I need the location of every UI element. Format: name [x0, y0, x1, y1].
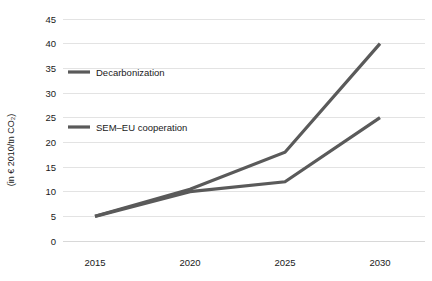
x-tick-label-2020: 2020	[179, 257, 200, 268]
y-axis-title: (in € 2010/tn CO₂)	[6, 114, 16, 187]
chart-canvas: 45 40 35 30 25 20 15 10 5 0 (in € 2010/t…	[0, 0, 432, 281]
y-tick-label-5: 5	[51, 211, 56, 222]
chart-background	[0, 0, 432, 281]
y-tick-label-15: 15	[45, 162, 56, 173]
x-tick-label-2015: 2015	[84, 257, 105, 268]
x-tick-label-2030: 2030	[369, 257, 390, 268]
legend-label-decarbonization: Decarbonization	[96, 67, 165, 78]
y-tick-label-0: 0	[51, 236, 56, 247]
y-tick-label-25: 25	[45, 112, 56, 123]
y-tick-label-20: 20	[45, 137, 56, 148]
line-chart: 45 40 35 30 25 20 15 10 5 0 (in € 2010/t…	[0, 0, 432, 281]
y-tick-label-10: 10	[45, 186, 56, 197]
legend-label-sem-eu-cooperation: SEM–EU cooperation	[96, 122, 187, 133]
y-tick-label-45: 45	[45, 14, 56, 25]
y-tick-label-30: 30	[45, 88, 56, 99]
y-tick-label-40: 40	[45, 38, 56, 49]
x-tick-label-2025: 2025	[274, 257, 295, 268]
y-tick-label-35: 35	[45, 63, 56, 74]
